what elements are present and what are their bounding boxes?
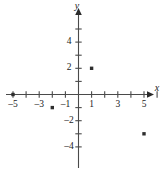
x-tick-label: 1 <box>89 99 94 109</box>
x-tick-label: –3 <box>33 99 44 109</box>
x-axis-arrowhead <box>147 91 154 98</box>
data-point <box>51 106 54 109</box>
x-axis-title: x <box>154 82 160 93</box>
y-axis-group: 42–2–4 y <box>63 0 82 168</box>
x-tick-label: –1 <box>60 99 71 109</box>
y-tick-label: 2 <box>67 62 72 72</box>
data-point <box>11 93 14 96</box>
y-tick-label: 4 <box>67 36 72 46</box>
x-tick-label: 5 <box>142 99 147 109</box>
x-axis-group: –5–3–1135 x <box>6 82 160 109</box>
data-point <box>142 132 145 135</box>
scatter-plot-svg: –5–3–1135 x 42–2–4 y <box>0 0 162 174</box>
data-point <box>90 67 93 70</box>
x-tick-label: –5 <box>7 99 18 109</box>
y-axis-title: y <box>74 0 80 11</box>
x-tick-label: 3 <box>115 99 120 109</box>
y-tick-label: –4 <box>63 141 74 151</box>
y-tick-label: –2 <box>63 115 74 125</box>
coordinate-plane-figure: –5–3–1135 x 42–2–4 y <box>0 0 162 174</box>
